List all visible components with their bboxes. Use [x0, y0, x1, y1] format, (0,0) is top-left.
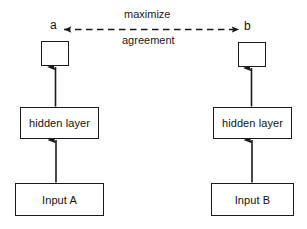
input-node-b: Input B	[211, 183, 294, 216]
output-label-a: a	[50, 19, 57, 31]
input-node-a: Input A	[15, 183, 104, 216]
diagram-canvas: maximize agreement a b hidden layer Inpu…	[0, 0, 307, 229]
objective-line-2: agreement	[122, 35, 175, 46]
hidden-layer-right: hidden layer	[213, 107, 292, 139]
output-node-a	[41, 41, 69, 66]
objective-line-1: maximize	[124, 9, 170, 20]
output-node-b	[238, 42, 266, 67]
hidden-layer-left: hidden layer	[20, 107, 99, 139]
output-label-b: b	[244, 20, 251, 32]
